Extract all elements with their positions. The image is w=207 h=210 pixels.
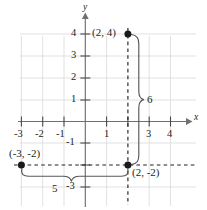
y-axis-arrowhead xyxy=(82,13,89,20)
tick-marks xyxy=(21,34,170,187)
point-neg3-neg2 xyxy=(18,162,25,169)
x-tick-label-neg3: -3 xyxy=(14,129,23,140)
dashed-guides xyxy=(14,28,196,205)
x-tick-label-neg1: -1 xyxy=(56,129,65,140)
point-2-4 xyxy=(124,31,131,38)
x-tick-label-3: 3 xyxy=(146,129,151,140)
horizontal-brace xyxy=(22,169,128,182)
measure-label-vertical: 6 xyxy=(147,94,153,105)
y-tick-label-1: 1 xyxy=(71,94,76,105)
gridlines xyxy=(20,34,196,206)
measure-label-horizontal: 5 xyxy=(52,183,58,194)
y-tick-label-neg3: -3 xyxy=(66,181,75,192)
x-tick-label-neg2: -2 xyxy=(35,129,44,140)
x-tick-label-1: 1 xyxy=(104,129,109,140)
axis-lines xyxy=(18,16,188,207)
point-label-2-neg2: (2, -2) xyxy=(132,167,160,178)
y-tick-label-2: 2 xyxy=(71,72,76,83)
coordinate-plane-figure: x y -3 -2 -1 1 3 4 4 3 2 1 -1 -3 (2, 4) … xyxy=(0,0,207,210)
y-tick-label-4: 4 xyxy=(71,28,76,39)
y-tick-label-neg1: -1 xyxy=(66,137,75,148)
y-tick-label-3: 3 xyxy=(71,50,76,61)
x-tick-label-4: 4 xyxy=(167,129,172,140)
vertical-brace xyxy=(132,35,144,165)
x-axis-arrowhead xyxy=(186,118,193,125)
y-axis-label: y xyxy=(83,3,87,13)
point-label-neg3-neg2: (-3, -2) xyxy=(9,148,40,159)
point-2-neg2 xyxy=(124,162,131,169)
x-axis-label: x xyxy=(194,113,198,123)
point-label-2-4: (2, 4) xyxy=(92,27,116,38)
